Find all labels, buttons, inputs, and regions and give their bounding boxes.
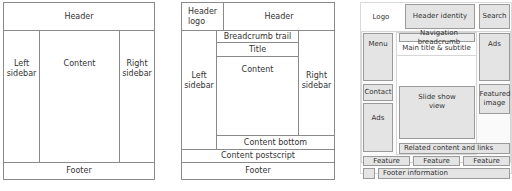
layout-3-feature-1: Feature: [363, 156, 410, 166]
layout-3-footer-information: Footer information: [378, 168, 510, 179]
layout-2-left-sidebar: Left sidebar: [181, 30, 217, 150]
layout-2-right-sidebar: Right sidebar: [298, 30, 335, 136]
layout-3-feature-3: Feature: [463, 156, 510, 166]
layout-2-content: Content: [216, 56, 299, 136]
layout-1-content: Content: [39, 30, 120, 163]
layout-1-footer: Footer: [3, 162, 155, 180]
layout-3-related-content: Related content and links: [399, 143, 510, 154]
layout-2-header: Header: [223, 2, 335, 31]
layout-2-left-sidebar-label: Left sidebar: [184, 71, 214, 91]
layout-3-navigation-breadcrumb: Navigation breadcrumb: [399, 33, 475, 42]
layout-3-logo: Logo: [361, 3, 401, 31]
layout-3-footer-icon-box: [363, 168, 375, 179]
layout-2-content-postscript: Content postscript: [181, 149, 335, 163]
layout-3-ads-right: Ads: [479, 33, 510, 81]
layout-3-contact: Contact: [363, 84, 393, 101]
layout-3-menu: Menu: [363, 33, 393, 81]
layout-1-right-sidebar-label: Right sidebar: [122, 59, 152, 79]
layout-3-featured-image-label: Featured image: [480, 90, 510, 108]
layout-1-left-sidebar: Left sidebar: [3, 30, 40, 163]
layout-1-header: Header: [3, 2, 155, 31]
layout-1-right-sidebar: Right sidebar: [119, 30, 155, 163]
layout-2-title: Title: [216, 42, 299, 57]
layout-3-header-identity: Header identity: [405, 4, 475, 29]
layout-2-header-logo-label: Header logo: [188, 7, 216, 27]
layout-3-slideshow-label: Slide show view: [417, 93, 457, 111]
layout-2-header-logo: Header logo: [181, 2, 224, 31]
layout-3-search: Search: [479, 4, 510, 29]
layout-2-right-sidebar-label: Right sidebar: [302, 71, 332, 91]
layout-1-left-sidebar-label: Left sidebar: [7, 59, 37, 79]
layout-3-featured-image: Featured image: [479, 84, 510, 114]
layout-3-feature-2: Feature: [413, 156, 460, 166]
layout-3-slideshow: Slide show view: [399, 86, 475, 139]
layout-3-ads-left: Ads: [363, 103, 393, 152]
layout-2-footer: Footer: [181, 162, 335, 180]
layout-3-main-title: Main title & subtitle: [397, 42, 476, 56]
layout-2-content-bottom: Content bottom: [216, 135, 335, 150]
